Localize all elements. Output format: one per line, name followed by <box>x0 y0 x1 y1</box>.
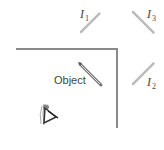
image-i1-subscript: 1 <box>85 14 89 23</box>
image-i2-subscript: 2 <box>152 82 156 91</box>
image-i3-subscript: 3 <box>152 14 156 23</box>
object-label: Object <box>54 74 86 86</box>
eye-icon <box>40 104 58 125</box>
mirror-diagram: Object I 1 I 3 I 2 <box>0 0 164 150</box>
